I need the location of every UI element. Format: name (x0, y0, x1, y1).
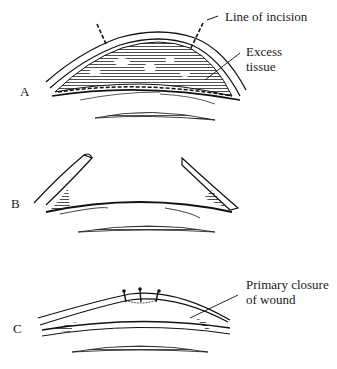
panel-label-c: C (13, 321, 22, 337)
panel-c-drawing (38, 287, 238, 352)
label-line-of-incision: Line of incision (225, 9, 307, 24)
label-excess: Excess (246, 44, 282, 59)
label-primary-closure: Primary closure (246, 277, 329, 292)
panel-a-drawing (46, 16, 246, 120)
label-of-wound: of wound (246, 292, 295, 307)
panel-label-a: A (20, 84, 29, 100)
panel-label-b: B (11, 196, 20, 212)
label-tissue: tissue (246, 59, 276, 74)
panel-b-drawing (34, 154, 238, 232)
surgical-diagram (0, 0, 337, 369)
